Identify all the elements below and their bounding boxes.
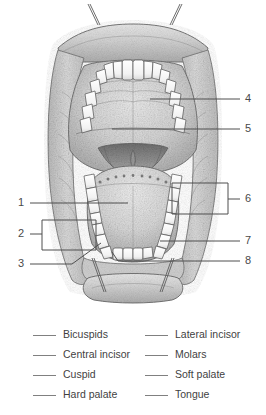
tooth-upper-molar-3-right: [174, 117, 186, 133]
callout-number-8: 8: [245, 255, 251, 266]
answer-blank-line[interactable]: [33, 375, 56, 376]
tooth-upper-central-incisor-left: [122, 60, 133, 80]
answer-blank-line[interactable]: [33, 395, 56, 396]
tooth-upper-molar-3-left: [80, 117, 92, 133]
answer-key-label: Molars: [175, 348, 207, 360]
answer-key-label: Soft palate: [175, 368, 225, 380]
callout-number-3: 3: [18, 258, 24, 269]
oral-cavity-illustration: [0, 0, 266, 312]
tooth-lower-central-incisor-left2: [123, 248, 133, 260]
answer-key-item[interactable]: Soft palate: [145, 368, 266, 388]
answer-key-right-column: Lateral incisor Molars Soft palate Tongu…: [133, 328, 266, 408]
callout-number-2: 2: [18, 228, 24, 239]
tooth-lower-molar-2-right: [168, 187, 180, 202]
tooth-upper-lateral-incisor-right: [144, 61, 153, 79]
answer-blank-line[interactable]: [145, 395, 168, 396]
answer-key-label: Bicuspids: [63, 328, 108, 340]
answer-key: Bicuspids Central incisor Cuspid Hard pa…: [0, 316, 266, 415]
answer-key-item[interactable]: Bicuspids: [33, 328, 133, 348]
answer-key-item[interactable]: Central incisor: [33, 348, 133, 368]
answer-blank-line[interactable]: [145, 375, 168, 376]
tooth-upper-lateral-incisor-left: [113, 61, 122, 79]
tooth-lower-central-incisor-left: [113, 248, 123, 260]
answer-key-item[interactable]: Molars: [145, 348, 266, 368]
answer-key-item[interactable]: Lateral incisor: [145, 328, 266, 348]
tooth-lower-molar-3-left: [84, 174, 96, 189]
answer-key-label: Lateral incisor: [175, 328, 240, 340]
answer-key-label: Cuspid: [63, 368, 96, 380]
oral-cavity-figure: 1 2 3 4 5 6 7 8: [0, 0, 266, 312]
callout-number-6: 6: [245, 193, 251, 204]
tooth-lower-central-incisor-right: [133, 248, 143, 260]
callout-number-4: 4: [245, 93, 251, 104]
answer-blank-line[interactable]: [145, 335, 168, 336]
answer-key-label: Tongue: [175, 388, 209, 400]
answer-key-label: Central incisor: [63, 348, 130, 360]
callout-number-7: 7: [245, 235, 251, 246]
tooth-lower-molar-1-left: [88, 200, 100, 214]
answer-key-item[interactable]: Hard palate: [33, 388, 133, 408]
answer-blank-line[interactable]: [33, 335, 56, 336]
answer-key-left-column: Bicuspids Central incisor Cuspid Hard pa…: [0, 328, 133, 408]
answer-blank-line[interactable]: [33, 355, 56, 356]
answer-key-item[interactable]: Cuspid: [33, 368, 133, 388]
tooth-upper-central-incisor-right: [133, 60, 144, 80]
tooth-lower-lateral-incisor-right2: [143, 247, 153, 259]
answer-key-item[interactable]: Tongue: [145, 388, 266, 408]
callout-number-1: 1: [18, 197, 24, 208]
callout-number-5: 5: [245, 123, 251, 134]
answer-key-label: Hard palate: [63, 388, 117, 400]
answer-blank-line[interactable]: [145, 355, 168, 356]
lower-lip: [82, 258, 184, 303]
tooth-lower-molar-2-left: [86, 187, 98, 202]
